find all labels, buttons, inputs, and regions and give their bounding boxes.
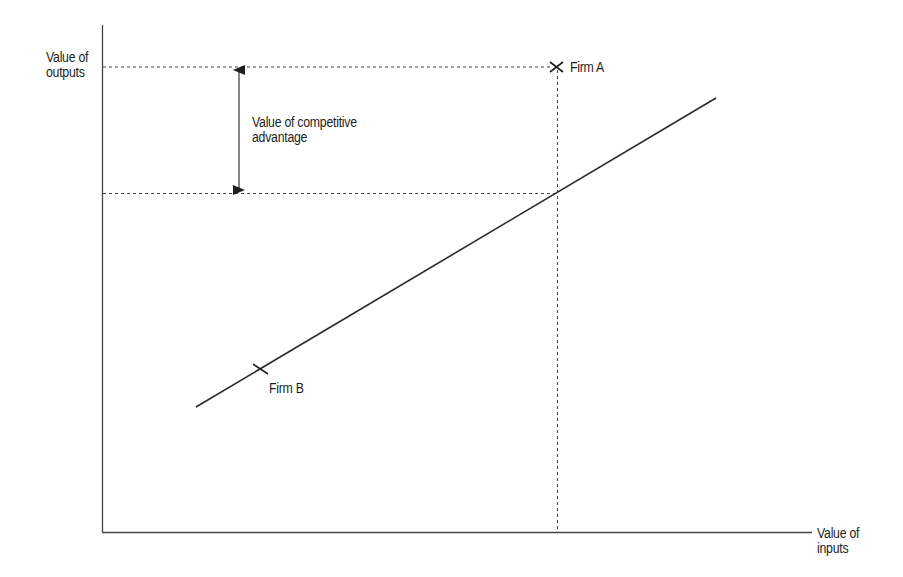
firm-b-label: Firm B (269, 381, 304, 396)
x-axis-label-line2: inputs (817, 541, 859, 556)
x-axis-label: Value of inputs (817, 526, 859, 556)
firm-a-label: Firm A (570, 60, 604, 75)
firm-a-marker-icon (550, 62, 563, 72)
diagram-canvas (0, 0, 903, 577)
y-axis-label-line1: Value of (46, 50, 88, 65)
annotation-line1: Value of competitive (252, 115, 357, 130)
annotation-label: Value of competitive advantage (252, 115, 357, 145)
y-axis-label-line2: outputs (46, 65, 88, 80)
y-axis-label: Value of outputs (46, 50, 88, 80)
x-axis-label-line1: Value of (817, 526, 859, 541)
annotation-line2: advantage (252, 130, 357, 145)
